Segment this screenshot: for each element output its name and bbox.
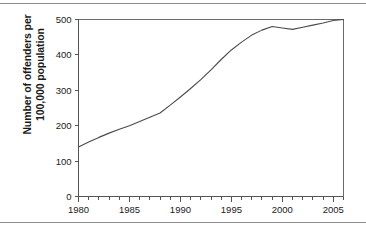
x-tick-labels-group: 198019851990199520002005 — [68, 204, 344, 215]
x-tick-label: 2005 — [323, 204, 344, 215]
data-series-group — [79, 20, 344, 147]
y-tick-label: 200 — [56, 120, 72, 131]
data-series-line — [79, 20, 344, 147]
x-tick-label: 1985 — [119, 204, 140, 215]
figure-container: Number of offenders per 100,000 populati… — [0, 0, 366, 234]
y-tick-label: 400 — [56, 49, 72, 60]
line-chart-plot: 0100200300400500 19801985199019952000200… — [0, 0, 366, 234]
x-tick-label: 1990 — [170, 204, 191, 215]
y-tick-labels-group: 0100200300400500 — [56, 14, 72, 202]
y-tick-label: 300 — [56, 85, 72, 96]
axes-group — [79, 20, 344, 197]
x-tick-label: 2000 — [272, 204, 293, 215]
y-tick-label: 0 — [66, 191, 71, 202]
y-tick-label: 100 — [56, 156, 72, 167]
tick-marks-group — [75, 20, 344, 202]
x-tick-label: 1995 — [221, 204, 242, 215]
y-tick-label: 500 — [56, 14, 72, 25]
x-tick-label: 1980 — [68, 204, 89, 215]
